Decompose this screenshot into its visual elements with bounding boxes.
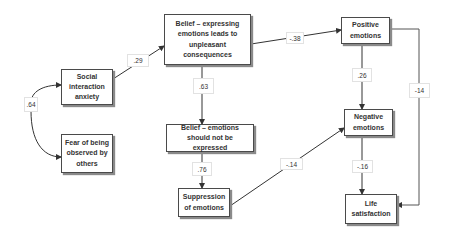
node-negative-emotions: Negative emotions xyxy=(344,109,393,136)
label-coefficient-negative-life: -.16 xyxy=(352,160,373,173)
node-belief-should-not-be-expressed: Belief – emotions should not be expresse… xyxy=(166,124,254,152)
node-fear-of-being-observed: Fear of being observed by others xyxy=(61,134,113,173)
label-coefficient-positive-negative: .26 xyxy=(352,68,372,82)
node-social-interaction-anxiety: Social interaction anxiety xyxy=(61,69,113,105)
label-coefficient-belief2-suppression: .76 xyxy=(192,162,212,176)
label-coefficient-social-belief: .29 xyxy=(127,54,149,67)
label-coefficient-suppression-negative: -.14 xyxy=(280,158,303,170)
node-belief-unpleasant-consequences: Belief – expressing emotions leads to un… xyxy=(164,14,251,65)
label-coefficient-covariance: .64 xyxy=(24,97,38,112)
node-positive-emotions: Positive emotions xyxy=(341,17,390,44)
node-life-satisfaction: Life satisfaction xyxy=(345,194,397,224)
edge-positive-life xyxy=(389,29,419,205)
label-coefficient-positive-life: -14 xyxy=(409,83,430,98)
label-coefficient-belief-belief2: .63 xyxy=(193,78,214,94)
label-coefficient-belief-positive: -.38 xyxy=(286,32,304,44)
node-suppression-of-emotions: Suppression of emotions xyxy=(178,188,230,217)
edge-covariance-curve-lower xyxy=(31,111,61,157)
